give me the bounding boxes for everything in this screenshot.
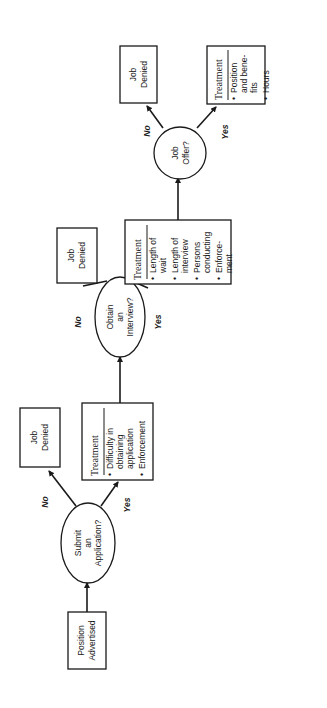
arrow-offer-yes	[197, 107, 216, 128]
denied1-line-2: Denied	[40, 424, 50, 451]
treatment-box-2: Treatment • Length of wait • Length of i…	[125, 220, 234, 284]
bullet: •	[214, 277, 224, 280]
decision2-line-3: Interview?	[125, 297, 135, 336]
decision-submit-application: Submit an Application?	[61, 503, 115, 583]
bullet: •	[137, 473, 147, 476]
start-line-1: Position	[76, 625, 86, 656]
job-denied-box-1: Job Denied	[20, 408, 60, 467]
arrow-submit-yes	[101, 482, 118, 506]
treatment1-item1-line1: Difficulty in	[105, 428, 115, 469]
treatment2-item4-line2: ment	[224, 253, 234, 273]
arrow-submit-no	[49, 471, 76, 506]
treatment1-item2-line1: Enforcement	[137, 420, 147, 469]
start-line-2: Advertised	[87, 620, 97, 660]
denied3-line-2: Denied	[139, 61, 149, 88]
bullet: •	[229, 97, 239, 100]
start-box-position-advertised: Position Advertised	[68, 612, 106, 669]
decision3-line-1: Job	[170, 146, 180, 160]
treatment-box-3: Treatment • Position and bene- fits • Ho…	[207, 46, 271, 104]
bullet: •	[192, 277, 202, 280]
decision2-no-label: No	[73, 316, 83, 327]
decision2-yes-label: Yes	[153, 314, 163, 329]
bullet: •	[170, 277, 180, 280]
treatment3-item1-line2: and bene-	[239, 55, 249, 93]
treatment2-item4-line1: Enforce-	[214, 241, 224, 273]
job-denied-box-3: Job Denied	[120, 46, 157, 103]
treatment2-item1-line2: wait	[158, 257, 168, 274]
decision2-line-2: an	[115, 312, 125, 322]
treatment3-item1-line1: Position	[229, 62, 239, 93]
treatment3-item2-line1: Hours	[261, 70, 271, 93]
treatment1-item1-line2: obtaining	[115, 434, 125, 469]
treatment2-item3-line2: conducting	[202, 232, 212, 273]
bullet: •	[148, 277, 158, 280]
decision1-line-2: an	[83, 538, 93, 548]
treatment3-header: Treatment	[213, 59, 224, 100]
decision-job-offer: Job Offer?	[154, 127, 206, 179]
treatment2-item1-line1: Length of	[148, 237, 158, 273]
denied2-line-1: Job	[66, 248, 76, 262]
decision3-line-2: Offer?	[181, 141, 191, 165]
treatment2-item2-line2: interview	[180, 239, 190, 273]
decision1-yes-label: Yes	[122, 497, 132, 512]
treatment2-item3-line1: Persons	[192, 242, 202, 273]
bullet: •	[105, 473, 115, 476]
decision1-line-1: Submit	[73, 529, 83, 556]
denied3-line-1: Job	[128, 67, 138, 81]
decision-obtain-interview: Obtain an Interview?	[95, 277, 145, 357]
treatment2-item2-line1: Length of	[170, 237, 180, 273]
decision3-yes-label: Yes	[220, 124, 230, 139]
decision2-line-1: Obtain	[105, 304, 115, 329]
job-denied-box-2: Job Denied	[57, 228, 97, 283]
treatment-box-1: Treatment • Difficulty in obtaining appl…	[82, 403, 153, 480]
arrow-offer-no	[147, 106, 163, 128]
decision3-no-label: No	[142, 125, 152, 136]
treatment3-item1-line3: fits	[249, 82, 259, 93]
treatment1-item1-line3: application	[125, 428, 135, 469]
decision1-line-3: Application?	[93, 520, 103, 567]
flowchart: Position Advertised Submit an Applicatio…	[0, 0, 327, 708]
denied1-line-1: Job	[29, 430, 39, 444]
denied2-line-2: Denied	[77, 242, 87, 269]
treatment2-header: Treatment	[132, 239, 143, 280]
treatment1-header: Treatment	[89, 435, 100, 476]
bullet: •	[261, 97, 271, 100]
decision1-no-label: No	[40, 496, 50, 507]
